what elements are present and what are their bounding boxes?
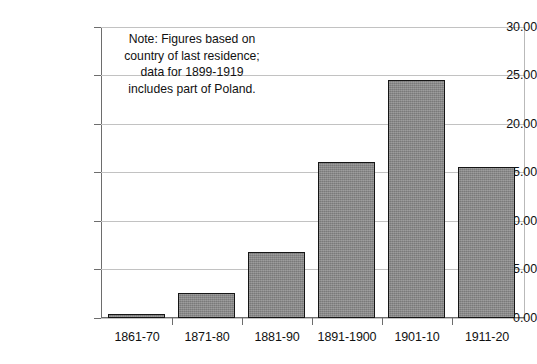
bar-chart: 30.00 25.00 20.00 15.00 10.00 5.00 0.00 … xyxy=(0,0,537,364)
bar-1881-90[interactable] xyxy=(248,252,305,318)
source-note-line-4: includes part of Poland. xyxy=(108,81,276,98)
source-note: Note: Figures based on country of last r… xyxy=(108,31,276,97)
x-tick-mark-3 xyxy=(312,318,313,325)
source-note-line-3: data for 1899-1919 xyxy=(108,64,276,81)
y-tick-mark-25 xyxy=(94,75,101,76)
x-axis-label-1861-70: 1861-70 xyxy=(114,330,159,344)
x-axis-label-1871-80: 1871-80 xyxy=(184,330,229,344)
x-tick-mark-2 xyxy=(242,318,243,325)
x-axis-label-1911-20: 1911-20 xyxy=(465,330,509,344)
bar-1871-80[interactable] xyxy=(178,293,235,318)
bar-1911-20[interactable] xyxy=(458,167,515,318)
x-axis-label-1891-1900: 1891-1900 xyxy=(318,330,377,344)
x-tick-mark-4 xyxy=(382,318,383,325)
y-tick-mark-20 xyxy=(94,124,101,125)
y-tick-mark-5 xyxy=(94,269,101,270)
y-tick-mark-15 xyxy=(94,172,101,173)
x-axis-label-1881-90: 1881-90 xyxy=(254,330,299,344)
bar-1901-10[interactable] xyxy=(388,80,445,318)
bar-1861-70[interactable] xyxy=(108,314,165,318)
y-tick-mark-10 xyxy=(94,221,101,222)
bar-1891-1900[interactable] xyxy=(318,162,375,318)
x-axis-label-1901-10: 1901-10 xyxy=(394,330,439,344)
source-note-line-1: Note: Figures based on xyxy=(108,31,276,48)
source-note-line-2: country of last residence; xyxy=(108,48,276,65)
y-tick-mark-30 xyxy=(94,27,101,28)
x-tick-mark-1 xyxy=(172,318,173,325)
x-tick-mark-5 xyxy=(452,318,453,325)
y-tick-mark-0 xyxy=(94,318,101,319)
